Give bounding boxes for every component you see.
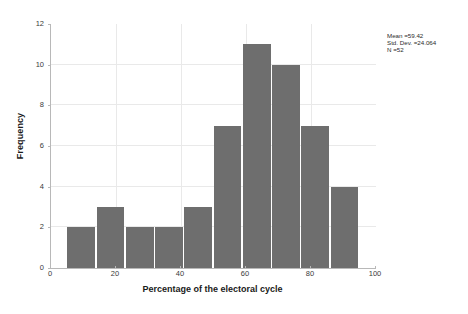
y-tick-mark	[48, 105, 51, 106]
histogram-bar	[126, 227, 154, 268]
stat-n: N =52	[387, 45, 436, 52]
histogram-bar	[331, 187, 359, 268]
histogram-bar	[97, 207, 125, 268]
x-tick-mark	[310, 266, 311, 269]
stat-mean: Mean =59.42	[387, 31, 436, 38]
y-tick-mark	[48, 146, 51, 147]
y-tick-label: 8	[24, 102, 44, 110]
x-tick-label: 0	[48, 270, 52, 278]
x-tick-label: 60	[241, 270, 249, 278]
histogram-bar	[184, 207, 212, 268]
y-tick-mark	[48, 24, 51, 25]
y-tick-mark	[48, 65, 51, 66]
y-tick-mark	[48, 227, 51, 228]
y-tick-label: 10	[24, 61, 44, 69]
histogram-figure: Frequency 024681012 020406080100 Percent…	[0, 0, 468, 314]
y-axis-tick-labels: 024681012	[24, 24, 44, 268]
histogram-bar	[155, 227, 183, 268]
x-tick-label: 80	[306, 270, 314, 278]
histogram-bar	[243, 44, 271, 268]
x-tick-mark	[245, 266, 246, 269]
histogram-bar	[301, 126, 329, 268]
x-tick-mark	[375, 266, 376, 269]
x-tick-label: 40	[176, 270, 184, 278]
x-tick-label: 20	[111, 270, 119, 278]
y-tick-label: 0	[24, 264, 44, 272]
y-tick-label: 4	[24, 183, 44, 191]
x-axis-tick-labels: 020406080100	[50, 270, 375, 282]
x-tick-label: 100	[369, 270, 382, 278]
histogram-bar	[214, 126, 242, 268]
plot-area	[50, 24, 376, 269]
y-tick-label: 2	[24, 224, 44, 232]
x-tick-mark	[115, 266, 116, 269]
y-tick-label: 12	[24, 20, 44, 28]
y-tick-label: 6	[24, 142, 44, 150]
x-axis-title: Percentage of the electoral cycle	[50, 284, 375, 294]
x-tick-mark	[180, 266, 181, 269]
histogram-bar	[272, 65, 300, 268]
bar-series	[51, 24, 376, 268]
stat-stddev: Std. Dev. =24.064	[387, 38, 436, 45]
x-tick-mark	[50, 266, 51, 269]
histogram-bar	[67, 227, 95, 268]
y-tick-mark	[48, 187, 51, 188]
statistics-annotation: Mean =59.42 Std. Dev. =24.064 N =52	[387, 31, 436, 52]
